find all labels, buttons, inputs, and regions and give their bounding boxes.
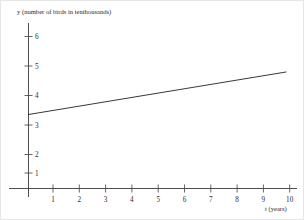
x-tick-label-3: 3 [104,196,108,204]
line-chart: y (number of birds in tenthousands) 6 5 … [1,1,304,220]
y-tick-label-5: 5 [35,63,39,71]
data-series-line [29,72,287,115]
x-tick-label-10: 10 [286,196,294,204]
y-tick-label-1: 1 [35,170,39,178]
y-tick-label-3: 3 [35,122,39,130]
x-tick-label-5: 5 [156,196,160,204]
chart-figure: y (number of birds in tenthousands) 6 5 … [0,0,304,220]
x-tick-label-8: 8 [235,196,239,204]
y-tick-label-2: 2 [35,151,39,159]
x-axis-tick-labels: 1 2 3 4 5 6 7 8 9 10 [51,196,293,204]
y-axis-label: y (number of birds in tenthousands) [17,8,111,16]
x-axis-label: t (years) [265,205,287,213]
x-tick-label-4: 4 [130,196,134,204]
x-tick-label-7: 7 [209,196,213,204]
x-tick-label-6: 6 [183,196,187,204]
x-tick-label-1: 1 [51,196,55,204]
y-axis-tick-labels: 6 5 4 3 2 1 [35,33,39,178]
y-tick-label-4: 4 [35,92,39,100]
x-tick-label-2: 2 [78,196,82,204]
y-tick-label-6: 6 [35,33,39,41]
x-tick-label-9: 9 [262,196,266,204]
